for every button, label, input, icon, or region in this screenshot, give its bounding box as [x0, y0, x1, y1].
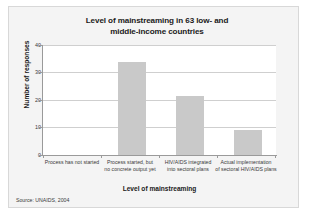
y-tick-mark-40: [39, 45, 42, 46]
bar-actual-implementation[interactable]: [234, 130, 262, 155]
bar-hiv-aids-integrated[interactable]: [176, 96, 204, 155]
x-category-3-line-2: of sectoral HIV/AIDS plans: [211, 166, 281, 173]
plot-area: [43, 45, 276, 155]
source-note: Source: UNAIDS, 2004: [16, 197, 69, 203]
x-tick-mark-1: [101, 155, 102, 158]
y-tick-mark-0: [39, 155, 42, 156]
chart-title-line-1: Level of mainstreaming in 63 low- and: [39, 15, 275, 26]
x-axis-title: Level of mainstreaming: [43, 185, 276, 192]
x-tick-mark-2: [159, 155, 160, 158]
y-tick-mark-10: [39, 127, 42, 128]
x-category-3-line-1: Actual implementation: [211, 159, 281, 166]
gridline-40: [43, 45, 276, 46]
bar-process-started-no-output[interactable]: [118, 62, 146, 156]
gridline-10: [43, 127, 276, 128]
y-tick-mark-30: [39, 72, 42, 73]
y-axis-line: [42, 45, 43, 156]
chart-figure: Level of mainstreaming in 63 low- and mi…: [8, 6, 299, 208]
y-tick-mark-20: [39, 100, 42, 101]
gridline-30: [43, 72, 276, 73]
x-tick-mark-0: [43, 155, 44, 158]
chart-title-line-2: middle-income countries: [39, 26, 275, 37]
x-tick-mark-3: [217, 155, 218, 158]
x-tick-mark-4: [275, 155, 276, 158]
gridline-20: [43, 100, 276, 101]
x-category-label-3: Actual implementation of sectoral HIV/AI…: [211, 159, 281, 172]
chart-title: Level of mainstreaming in 63 low- and mi…: [39, 15, 275, 37]
